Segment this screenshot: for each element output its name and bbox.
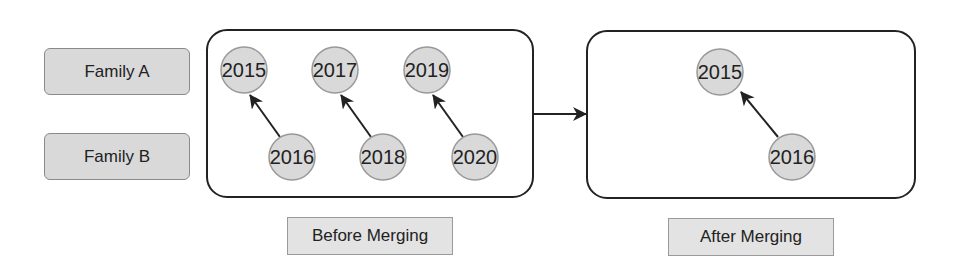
edge-2018-to-2017 — [341, 95, 371, 137]
node-after-2015: 2015 — [697, 49, 743, 95]
svg-text:2019: 2019 — [405, 59, 450, 81]
edge-2016-to-2015 — [250, 95, 280, 137]
node-2018: 2018 — [360, 134, 406, 180]
svg-text:2015: 2015 — [698, 61, 743, 83]
svg-text:2020: 2020 — [453, 146, 498, 168]
svg-text:2018: 2018 — [361, 146, 406, 168]
svg-text:2017: 2017 — [313, 59, 358, 81]
after-merging-caption: After Merging — [668, 218, 834, 256]
node-2015: 2015 — [221, 47, 267, 93]
node-2016: 2016 — [269, 134, 315, 180]
edge-2020-to-2019 — [433, 95, 463, 137]
node-2020: 2020 — [452, 134, 498, 180]
after-merging-panel — [587, 31, 915, 198]
svg-text:2015: 2015 — [222, 59, 267, 81]
svg-text:2016: 2016 — [270, 146, 315, 168]
node-after-2016: 2016 — [769, 134, 815, 180]
node-2017: 2017 — [312, 47, 358, 93]
edge-after-2016-to-2015 — [741, 92, 778, 137]
before-merging-caption: Before Merging — [287, 217, 453, 255]
node-2019: 2019 — [404, 47, 450, 93]
svg-text:2016: 2016 — [770, 146, 815, 168]
